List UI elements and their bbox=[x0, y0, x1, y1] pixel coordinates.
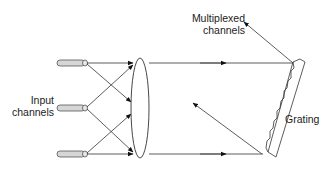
input-rays bbox=[87, 63, 133, 154]
input-label-line1: Input bbox=[4, 94, 54, 106]
input-fiber-1 bbox=[57, 60, 88, 66]
input-fiber-2 bbox=[57, 105, 88, 111]
multiplexer-diagram bbox=[0, 0, 330, 172]
multiplexed-label-line2: channels bbox=[185, 24, 245, 36]
grating-label: Grating bbox=[285, 113, 319, 125]
input-fiber-3 bbox=[57, 151, 88, 157]
multiplexed-channels-label: Multiplexed channels bbox=[185, 12, 245, 36]
input-channels-label: Input channels bbox=[4, 94, 54, 118]
lens bbox=[131, 58, 149, 158]
multiplexed-label-line1: Multiplexed bbox=[185, 12, 245, 24]
input-label-line2: channels bbox=[4, 106, 54, 118]
grating bbox=[266, 59, 305, 157]
